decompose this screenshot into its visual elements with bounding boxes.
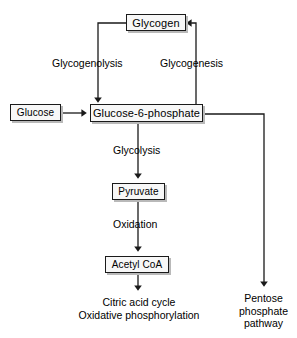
diagram-connectors (0, 0, 297, 338)
metabolism-diagram: Glycogen Glucose Glucose-6-phosphate Pyr… (0, 0, 297, 338)
node-acetyl-coa[interactable]: Acetyl CoA (105, 256, 169, 273)
citric-acid-cycle-line-1: Citric acid cycle (46, 296, 232, 309)
node-glucose-label: Glucose (17, 107, 54, 118)
node-pyruvate[interactable]: Pyruvate (112, 183, 165, 200)
edge-label-oxidation: Oxidation (113, 218, 157, 231)
pentose-phosphate-pathway-line-3: pathway (232, 317, 295, 330)
node-acetyl-coa-label: Acetyl CoA (112, 259, 162, 270)
node-glucose-6-phosphate[interactable]: Glucose-6-phosphate (90, 104, 203, 122)
node-pyruvate-label: Pyruvate (118, 186, 158, 197)
node-glucose-6-phosphate-label: Glucose-6-phosphate (93, 107, 200, 119)
node-glucose[interactable]: Glucose (10, 104, 61, 121)
pentose-phosphate-pathway-line-2: phosphate (232, 305, 295, 318)
edge-label-glycogenolysis: Glycogenolysis (52, 57, 123, 70)
edge-g6p-to-pentose-phosphate-pathway (204, 114, 264, 284)
pentose-phosphate-pathway-line-1: Pentose (232, 292, 295, 305)
citric-acid-cycle-line-2: Oxidative phosphorylation (46, 309, 232, 322)
text-pentose-phosphate-pathway: Pentose phosphate pathway (232, 292, 295, 330)
node-glycogen[interactable]: Glycogen (126, 14, 186, 31)
edge-label-glycogenesis: Glycogenesis (160, 57, 223, 70)
node-glycogen-label: Glycogen (132, 17, 179, 29)
text-citric-acid-cycle: Citric acid cycle Oxidative phosphorylat… (46, 296, 232, 321)
edge-label-glycolysis: Glycolysis (113, 144, 160, 157)
